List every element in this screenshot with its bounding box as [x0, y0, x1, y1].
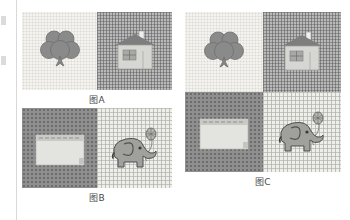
- figure-c-tile-house[interactable]: [263, 12, 341, 92]
- house-icon: [279, 30, 325, 74]
- figure-c-tile-clover[interactable]: [185, 12, 263, 92]
- elephant-icon: [106, 126, 164, 176]
- figure-b-tile-elephant[interactable]: [97, 108, 172, 188]
- figure-a-tile-house[interactable]: [97, 12, 172, 90]
- page-edge-mark: [1, 16, 6, 25]
- figure-a-caption: 图A: [22, 93, 172, 106]
- figure-group-a: 图A: [22, 12, 172, 106]
- figure-b-tile-card[interactable]: [22, 108, 97, 188]
- figure-a-tile-grid: [22, 12, 172, 90]
- figure-c-tile-elephant[interactable]: [263, 92, 341, 172]
- figure-c-tile-card[interactable]: [185, 92, 263, 172]
- figure-group-c: 图C: [185, 12, 341, 188]
- elephant-icon: [273, 110, 331, 160]
- figure-group-b: 图B: [22, 108, 172, 204]
- greeting-card-icon: [199, 118, 249, 150]
- page-gutter-rule: [16, 0, 17, 220]
- clover-icon: [201, 27, 247, 73]
- clover-icon: [37, 26, 83, 72]
- worksheet-page: 图A: [0, 0, 350, 220]
- figure-b-caption: 图B: [22, 191, 172, 204]
- figure-c-caption: 图C: [185, 175, 341, 188]
- figure-c-tile-grid: [185, 12, 341, 172]
- house-icon: [112, 29, 158, 73]
- figure-a-tile-clover[interactable]: [22, 12, 97, 90]
- greeting-card-icon: [35, 134, 85, 166]
- figure-b-tile-grid: [22, 108, 172, 188]
- page-edge-mark: [1, 56, 6, 65]
